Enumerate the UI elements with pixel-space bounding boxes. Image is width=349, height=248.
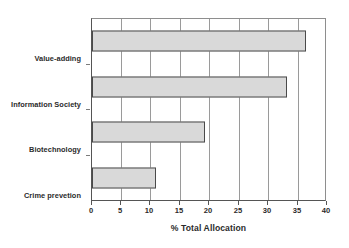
- category-label-biotechnology: Biotechnology: [29, 145, 81, 154]
- x-axis-label-0: 0: [81, 206, 101, 215]
- category-label-crime-prevetion: Crime prevetion: [24, 191, 81, 200]
- x-axis-tick-10: [149, 201, 150, 205]
- category-label-value-adding: Value-adding: [34, 54, 81, 63]
- x-axis-label-25: 25: [228, 206, 248, 215]
- x-axis-tick-35: [297, 201, 298, 205]
- x-axis-title: % Total Allocation: [91, 223, 326, 233]
- bar-chart: Value-adding Information Society Biotech…: [0, 0, 349, 248]
- plot-area: [91, 18, 326, 201]
- y-axis-tick: [86, 155, 90, 156]
- y-axis-tick: [86, 109, 90, 110]
- bar-value-adding: [92, 31, 306, 52]
- x-axis-label-10: 10: [139, 206, 159, 215]
- category-label-information-society: Information Society: [11, 100, 81, 109]
- bar-crime-prevetion: [92, 168, 156, 189]
- y-axis-tick: [86, 64, 90, 65]
- x-axis-tick-0: [91, 201, 92, 205]
- x-axis-label-35: 35: [287, 206, 307, 215]
- x-axis-label-40: 40: [316, 206, 336, 215]
- category-axis-labels: Value-adding Information Society Biotech…: [0, 18, 86, 201]
- x-axis-label-15: 15: [169, 206, 189, 215]
- x-axis-label-5: 5: [110, 206, 130, 215]
- x-axis-tick-40: [326, 201, 327, 205]
- x-axis-label-30: 30: [257, 206, 277, 215]
- x-axis-tick-25: [238, 201, 239, 205]
- bar-biotechnology: [92, 122, 205, 143]
- x-axis-tick-5: [120, 201, 121, 205]
- bar-information-society: [92, 77, 287, 98]
- x-axis-tick-30: [267, 201, 268, 205]
- x-axis-tick-20: [208, 201, 209, 205]
- x-axis-label-20: 20: [198, 206, 218, 215]
- x-axis-tick-15: [179, 201, 180, 205]
